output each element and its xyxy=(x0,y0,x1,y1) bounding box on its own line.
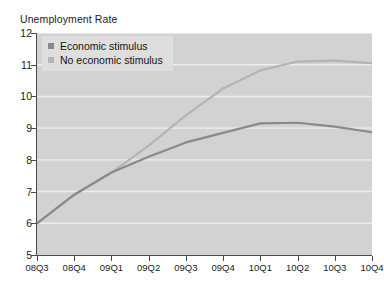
x-axis-tick-mark xyxy=(149,256,150,261)
legend-swatch-icon xyxy=(48,43,54,49)
x-axis-tick-labels: 08Q308Q409Q109Q209Q309Q410Q110Q210Q310Q4 xyxy=(37,262,372,278)
x-axis-tick-marks xyxy=(37,256,372,261)
chart-legend: Economic stimulusNo economic stimulus xyxy=(42,36,173,71)
legend-swatch-icon xyxy=(48,57,54,63)
x-axis-tick-label: 08Q4 xyxy=(63,262,86,273)
series-line xyxy=(37,123,372,224)
x-axis-tick-label: 09Q1 xyxy=(100,262,123,273)
legend-item-label: Economic stimulus xyxy=(60,40,148,52)
x-axis-tick-mark xyxy=(335,256,336,261)
legend-item[interactable]: Economic stimulus xyxy=(48,39,163,53)
y-axis-tick-marks xyxy=(0,33,36,255)
x-axis-tick-mark xyxy=(260,256,261,261)
x-axis-tick-mark xyxy=(223,256,224,261)
data-series-group xyxy=(37,61,372,224)
x-axis-tick-mark xyxy=(111,256,112,261)
x-axis-tick-mark xyxy=(74,256,75,261)
x-axis-tick-label: 10Q4 xyxy=(360,262,383,273)
x-axis-tick-mark xyxy=(298,256,299,261)
x-axis-tick-label: 09Q3 xyxy=(174,262,197,273)
chart-title: Unemployment Rate xyxy=(20,13,117,25)
series-line xyxy=(37,61,372,224)
x-axis-tick-label: 09Q2 xyxy=(137,262,160,273)
x-axis-tick-label: 09Q4 xyxy=(211,262,234,273)
x-axis-tick-label: 08Q3 xyxy=(25,262,48,273)
legend-item[interactable]: No economic stimulus xyxy=(48,53,163,67)
legend-item-label: No economic stimulus xyxy=(60,54,163,66)
x-axis-tick-label: 10Q2 xyxy=(286,262,309,273)
unemployment-rate-chart: Unemployment Rate 12111098765 08Q308Q409… xyxy=(0,0,384,294)
x-axis-tick-mark xyxy=(186,256,187,261)
x-axis-tick-label: 10Q1 xyxy=(249,262,272,273)
plot-area-wrapper: Economic stimulusNo economic stimulus xyxy=(37,33,372,255)
x-axis-tick-mark xyxy=(372,256,373,261)
x-axis-tick-mark xyxy=(37,256,38,261)
x-axis-tick-label: 10Q3 xyxy=(323,262,346,273)
